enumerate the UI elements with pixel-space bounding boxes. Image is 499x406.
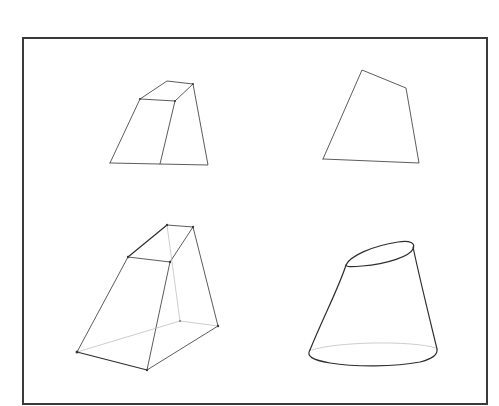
sketch-figure: [0, 0, 499, 406]
figure-frame: [23, 38, 487, 404]
